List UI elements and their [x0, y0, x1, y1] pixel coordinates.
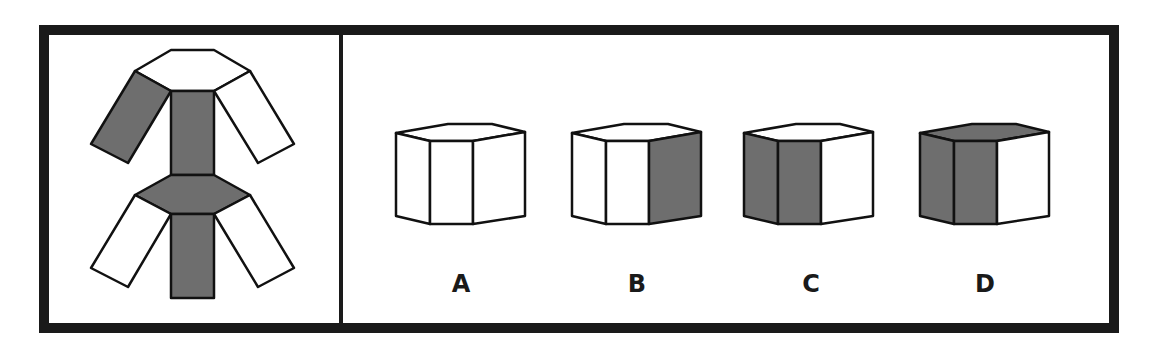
left-face — [744, 133, 778, 224]
left-face — [572, 133, 606, 224]
option-label-a[interactable]: A — [441, 270, 481, 298]
figures — [0, 0, 1150, 356]
front-face — [606, 141, 649, 224]
right-face — [821, 132, 873, 224]
front-face — [430, 141, 473, 224]
right-face — [997, 132, 1049, 224]
option-label-c[interactable]: C — [791, 270, 831, 298]
option-d-prism[interactable] — [920, 124, 1049, 224]
left-face — [396, 133, 430, 224]
lower-center-side-face — [171, 214, 214, 298]
left-face — [920, 133, 954, 224]
right-face — [649, 132, 701, 224]
front-face — [954, 141, 997, 224]
front-face — [778, 141, 821, 224]
upper-left-side-face — [91, 71, 171, 163]
right-face — [473, 132, 525, 224]
lower-left-side-face — [91, 195, 171, 287]
answer-options — [396, 124, 1049, 224]
option-a-prism[interactable] — [396, 124, 525, 224]
lower-right-side-face — [214, 195, 294, 287]
option-label-d[interactable]: D — [965, 270, 1005, 298]
prism-net — [91, 50, 294, 298]
option-label-b[interactable]: B — [617, 270, 657, 298]
upper-center-side-face — [171, 91, 214, 175]
upper-right-side-face — [214, 71, 294, 163]
option-b-prism[interactable] — [572, 124, 701, 224]
option-c-prism[interactable] — [744, 124, 873, 224]
